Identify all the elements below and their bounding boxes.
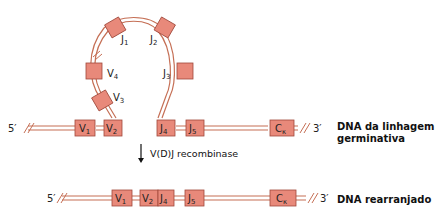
- three-prime-label-rearranged: 3′: [320, 193, 329, 204]
- rearranged-segment-J4: J4: [158, 190, 174, 206]
- segment-J4: J4: [157, 120, 175, 136]
- break-mark-5-rearranged: [57, 193, 67, 203]
- svg-text:J1: J1: [120, 34, 128, 47]
- break-mark-5: [24, 123, 34, 133]
- segment-J5: J5: [186, 120, 204, 136]
- segment-V4: V4: [86, 63, 119, 81]
- five-prime-label-rearranged: 5′: [47, 193, 56, 204]
- vdj-diagram: 5′ 3′ V1 V2 J4 J5 Cκ V3 V4 J1 J2 J3: [0, 0, 447, 221]
- segment-Ck: Cκ: [270, 120, 294, 136]
- segment-V1: V1: [75, 120, 95, 136]
- five-prime-label: 5′: [8, 123, 17, 134]
- segment-V2: V2: [104, 120, 122, 136]
- rearranged-segment-V2: V2: [140, 190, 158, 206]
- svg-text:J3: J3: [162, 68, 170, 81]
- loop-break-mark: [93, 51, 102, 60]
- germline-label-line2: germinativa: [337, 133, 405, 144]
- segment-J3: J3: [162, 63, 193, 81]
- germline-label-line1: DNA da linhagem: [337, 121, 434, 132]
- svg-text:J2: J2: [149, 34, 157, 47]
- rearranged-segment-J5: J5: [185, 190, 204, 206]
- svg-text:V4: V4: [107, 68, 119, 81]
- recombinase-label: V(D)J recombinase: [150, 148, 238, 159]
- diagram-canvas: 5′ 3′ V1 V2 J4 J5 Cκ V3 V4 J1 J2 J3: [0, 0, 447, 221]
- down-arrow-icon: [138, 144, 144, 163]
- rearranged-segment-Ck: Cκ: [270, 190, 296, 206]
- svg-text:V3: V3: [113, 92, 124, 105]
- rearranged-label: DNA rearranjado: [337, 194, 431, 205]
- three-prime-label: 3′: [313, 123, 322, 134]
- rearranged-segment-V1: V1: [112, 190, 132, 206]
- break-mark-3: [300, 123, 310, 133]
- break-mark-3-rearranged: [308, 193, 318, 203]
